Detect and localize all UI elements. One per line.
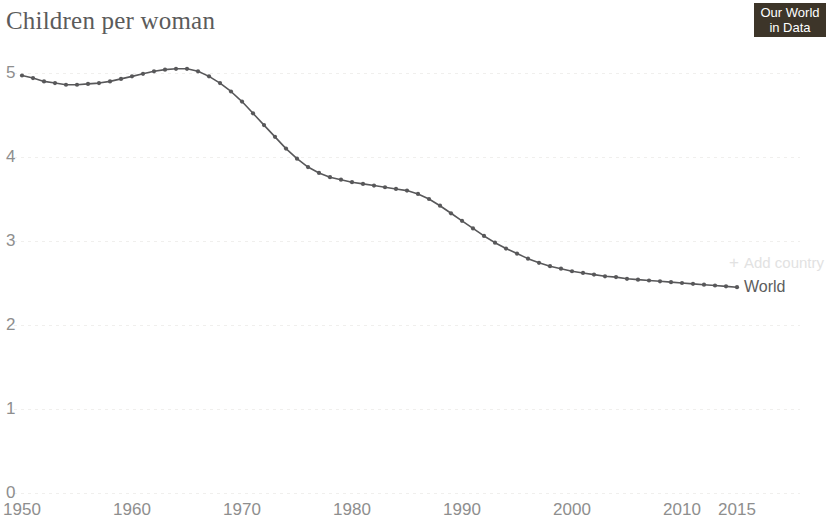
data-point[interactable] (328, 175, 332, 179)
data-point[interactable] (702, 283, 706, 287)
plus-icon: + (729, 255, 739, 270)
data-point[interactable] (658, 279, 662, 283)
add-country-label: Add country (744, 254, 824, 271)
data-point[interactable] (317, 171, 321, 175)
data-point[interactable] (493, 241, 497, 245)
data-point[interactable] (570, 269, 574, 273)
series-markers-world (20, 67, 739, 290)
data-point[interactable] (53, 81, 57, 85)
data-point[interactable] (691, 282, 695, 286)
data-point[interactable] (262, 123, 266, 127)
data-point[interactable] (207, 74, 211, 78)
data-point[interactable] (141, 72, 145, 76)
data-point[interactable] (559, 267, 563, 271)
data-point[interactable] (647, 278, 651, 282)
line-chart-svg (0, 0, 831, 525)
data-point[interactable] (416, 192, 420, 196)
data-point[interactable] (713, 283, 717, 287)
data-point[interactable] (119, 77, 123, 81)
data-point[interactable] (273, 135, 277, 139)
data-point[interactable] (361, 182, 365, 186)
data-point[interactable] (185, 67, 189, 71)
data-point[interactable] (86, 82, 90, 86)
data-point[interactable] (735, 285, 739, 289)
data-point[interactable] (251, 111, 255, 115)
data-point[interactable] (152, 69, 156, 73)
add-country-button[interactable]: + Add country (729, 254, 824, 271)
x-tick-label-2010: 2010 (663, 500, 701, 520)
data-point[interactable] (42, 79, 46, 83)
data-point[interactable] (108, 79, 112, 83)
x-tick-label-1980: 1980 (333, 500, 371, 520)
data-point[interactable] (339, 178, 343, 182)
data-point[interactable] (75, 83, 79, 87)
data-point[interactable] (130, 74, 134, 78)
y-tick-label-2: 2 (6, 315, 15, 335)
data-point[interactable] (218, 81, 222, 85)
data-point[interactable] (20, 73, 24, 77)
data-point[interactable] (636, 278, 640, 282)
data-point[interactable] (64, 83, 68, 87)
chart-page: Children per woman Our World in Data 012… (0, 0, 831, 525)
data-point[interactable] (581, 271, 585, 275)
data-point[interactable] (350, 180, 354, 184)
data-point[interactable] (669, 280, 673, 284)
data-point[interactable] (394, 187, 398, 191)
data-point[interactable] (603, 274, 607, 278)
x-tick-label-1990: 1990 (443, 500, 481, 520)
series-legend-label-world[interactable]: World (744, 278, 786, 296)
data-point[interactable] (592, 273, 596, 277)
data-point[interactable] (449, 211, 453, 215)
y-tick-label-4: 4 (6, 147, 15, 167)
data-point[interactable] (438, 204, 442, 208)
data-point[interactable] (306, 165, 310, 169)
data-point[interactable] (163, 68, 167, 72)
data-point[interactable] (405, 189, 409, 193)
data-point[interactable] (427, 197, 431, 201)
plot-area: 012345 19501960197019801990200020102015 (0, 0, 831, 525)
data-point[interactable] (460, 219, 464, 223)
data-point[interactable] (295, 157, 299, 161)
x-tick-label-2000: 2000 (553, 500, 591, 520)
data-point[interactable] (471, 226, 475, 230)
data-point[interactable] (724, 284, 728, 288)
x-tick-label-1950: 1950 (3, 500, 41, 520)
data-point[interactable] (31, 76, 35, 80)
data-point[interactable] (515, 252, 519, 256)
y-tick-label-1: 1 (6, 399, 15, 419)
data-point[interactable] (174, 67, 178, 71)
data-point[interactable] (680, 281, 684, 285)
data-point[interactable] (372, 183, 376, 187)
data-point[interactable] (240, 99, 244, 103)
x-tick-label-1960: 1960 (113, 500, 151, 520)
data-point[interactable] (284, 147, 288, 151)
y-tick-label-5: 5 (6, 63, 15, 83)
series-line-world (22, 69, 737, 287)
data-point[interactable] (383, 185, 387, 189)
data-point[interactable] (482, 234, 486, 238)
data-point[interactable] (625, 277, 629, 281)
x-tick-label-2015: 2015 (718, 500, 756, 520)
data-point[interactable] (196, 69, 200, 73)
data-point[interactable] (537, 261, 541, 265)
y-tick-label-3: 3 (6, 231, 15, 251)
data-point[interactable] (97, 81, 101, 85)
x-tick-label-1970: 1970 (223, 500, 261, 520)
data-point[interactable] (229, 89, 233, 93)
data-point[interactable] (526, 257, 530, 261)
data-point[interactable] (548, 264, 552, 268)
data-point[interactable] (504, 246, 508, 250)
data-point[interactable] (614, 275, 618, 279)
